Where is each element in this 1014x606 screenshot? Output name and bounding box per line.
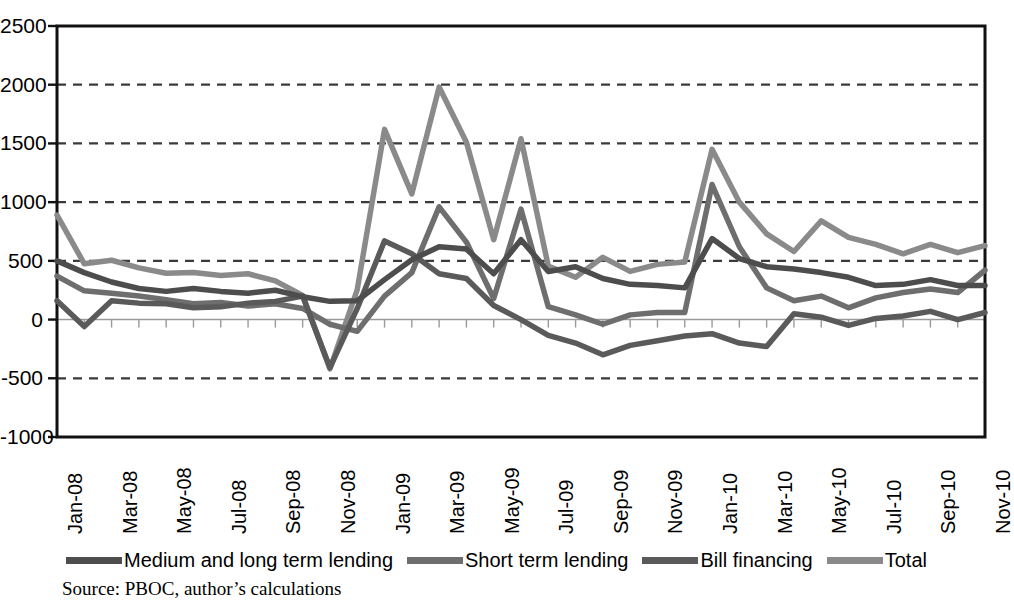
legend-label: Short term lending	[465, 550, 628, 570]
x-axis-tick-label: Sep-09	[611, 470, 631, 535]
legend-label: Bill financing	[700, 550, 812, 570]
y-axis-tick-label: 500	[0, 250, 43, 271]
x-axis-tick-label: Jul-10	[884, 480, 904, 534]
x-axis-tick-label: May-08	[174, 467, 194, 534]
y-axis-tick-label: 1500	[0, 132, 43, 153]
y-axis-tick-label: 1000	[0, 191, 43, 212]
y-axis-tick-label: 2000	[0, 74, 43, 95]
legend-swatch-icon	[407, 557, 463, 564]
y-axis-tick-label: 0	[0, 309, 43, 330]
chart-legend: Medium and long term lendingShort term l…	[0, 546, 1007, 574]
x-axis-tick-label: Jan-10	[720, 473, 740, 534]
x-axis-tick-label: May-10	[829, 467, 849, 534]
x-axis-tick-label: Jan-09	[393, 473, 413, 534]
plot-background	[57, 26, 985, 437]
x-axis-tick-label: Jan-08	[65, 473, 85, 534]
legend-label: Medium and long term lending	[124, 550, 393, 570]
x-axis-tick-label: Jul-08	[229, 480, 249, 534]
legend-entry: Medium and long term lending	[66, 550, 393, 570]
x-axis-tick-label: May-09	[502, 467, 522, 534]
legend-swatch-icon	[827, 557, 883, 564]
legend-entry: Total	[827, 550, 927, 570]
y-axis-tick-label: -500	[0, 367, 43, 388]
x-axis-tick-label: Sep-10	[938, 470, 958, 535]
legend-swatch-icon	[66, 557, 122, 564]
legend-label: Total	[885, 550, 927, 570]
x-axis-tick-label: Nov-09	[665, 470, 685, 534]
legend-entry: Short term lending	[407, 550, 628, 570]
x-axis-tick-label: Mar-08	[120, 471, 140, 534]
legend-swatch-icon	[642, 557, 698, 564]
x-axis-tick-label: Mar-10	[775, 471, 795, 534]
legend-entry: Bill financing	[642, 550, 812, 570]
x-axis-tick-label: Jul-09	[556, 480, 576, 534]
y-axis-tick-label: -1000	[0, 426, 43, 447]
y-axis-tick-label: 2500	[0, 15, 43, 36]
x-axis-tick-label: Mar-09	[447, 471, 467, 534]
x-axis-tick-label: Nov-08	[338, 470, 358, 534]
source-note: Source: PBOC, author’s calculations	[62, 578, 341, 600]
x-axis-tick-label: Sep-08	[283, 470, 303, 535]
x-axis-tick-label: Nov-10	[993, 470, 1013, 534]
